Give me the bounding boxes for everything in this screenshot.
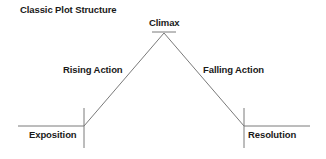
- rising-action-line: [84, 33, 164, 126]
- resolution-label: Resolution: [248, 129, 296, 140]
- exposition-label: Exposition: [29, 129, 77, 140]
- rising-action-label: Rising Action: [63, 64, 123, 75]
- falling-action-label: Falling Action: [203, 64, 264, 75]
- climax-label: Climax: [149, 17, 180, 28]
- falling-action-line: [164, 33, 244, 126]
